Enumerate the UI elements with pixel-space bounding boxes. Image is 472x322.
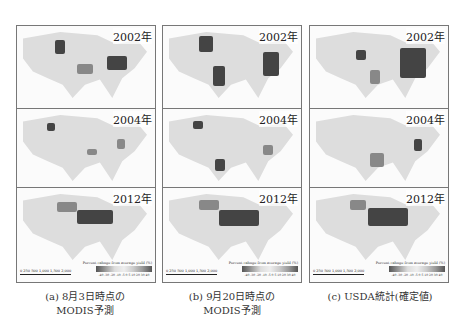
year-label: 2002年	[259, 28, 298, 44]
year-label: 2004年	[406, 111, 445, 127]
yield-blob	[350, 200, 366, 210]
caption-b-line2: MODIS予測	[157, 304, 307, 318]
map-c-2012: 0 250 500 1,000 1,500 2,000 Percent cahn…	[309, 188, 449, 283]
legend-title: Percent cahnge from average yield (%)	[83, 261, 152, 265]
caption-a-line2: MODIS予測	[10, 304, 160, 318]
year-label: 2004年	[259, 111, 298, 127]
scale-bar: 0 250 500 1,000 1,500 2,000	[166, 269, 217, 275]
yield-blob	[199, 200, 219, 210]
yield-blob	[57, 202, 77, 212]
column-b: 2002年 2004年 0 250 500 1,000 1,500 2,000 …	[162, 25, 302, 283]
yield-blob	[117, 139, 125, 149]
yield-blob	[77, 64, 93, 74]
legend: 0 250 500 1,000 1,500 2,000 Percent cahn…	[166, 261, 298, 279]
yield-blob	[215, 159, 225, 171]
map-a-2002: 2002年	[16, 25, 156, 109]
yield-blob	[107, 56, 127, 70]
scale-bar: 0 250 500 1,000 1,500 2,000	[20, 269, 71, 275]
legend-title: Percent cahnge from average yield (%)	[229, 261, 298, 265]
color-bar	[242, 266, 298, 272]
map-b-2002: 2002年	[162, 25, 302, 109]
caption-a: (a) 8月3日時点の MODIS予測	[10, 290, 160, 318]
legend-ticks: -40 -30 -20 -10 -5 0 5 10 20 30 40	[96, 273, 152, 277]
map-b-2004: 2004年	[162, 109, 302, 188]
yield-blob	[356, 50, 366, 60]
yield-blob	[370, 153, 384, 167]
yield-blob	[193, 121, 203, 129]
column-a: 2002年 2004年 0 250 500 1,000 1,500 2,000 …	[16, 25, 156, 283]
scale-bar: 0 250 500 1,000 1,500 2,000	[313, 269, 364, 275]
caption-a-line1: (a) 8月3日時点の	[10, 290, 160, 304]
map-c-2002: 2002年	[309, 25, 449, 109]
year-label: 2012年	[113, 190, 152, 206]
yield-blob	[414, 139, 422, 151]
yield-blob	[219, 210, 259, 226]
map-a-2012: 0 250 500 1,000 1,500 2,000 Percent cahn…	[16, 188, 156, 283]
yield-blob	[55, 40, 65, 54]
yield-blob	[263, 145, 273, 155]
map-a-2004: 2004年	[16, 109, 156, 188]
yield-blob	[199, 36, 213, 52]
color-bar	[389, 266, 445, 272]
yield-blob	[368, 208, 408, 226]
year-label: 2002年	[113, 28, 152, 44]
yield-blob	[47, 123, 55, 131]
map-c-2004: 2004年	[309, 109, 449, 188]
legend-title: Percent cahnge from average yield (%)	[376, 261, 445, 265]
yield-blob	[370, 70, 380, 84]
caption-b: (b) 9月20日時点の MODIS予測	[157, 290, 307, 318]
legend-ticks: -40 -30 -20 -10 -5 0 5 10 20 30 40	[389, 273, 445, 277]
year-label: 2012年	[259, 190, 298, 206]
yield-blob	[77, 210, 113, 224]
yield-blob	[87, 149, 97, 155]
year-label: 2004年	[113, 111, 152, 127]
caption-c-line1: (c) USDA統計(確定値)	[305, 290, 455, 304]
yield-blob	[400, 48, 426, 78]
yield-blob	[263, 52, 279, 76]
legend: 0 250 500 1,000 1,500 2,000 Percent cahn…	[313, 261, 445, 279]
legend: 0 250 500 1,000 1,500 2,000 Percent cahn…	[20, 261, 152, 279]
legend-ticks: -40 -30 -20 -10 -5 0 5 10 20 30 40	[242, 273, 298, 277]
column-c: 2002年 2004年 0 250 500 1,000 1,500 2,000 …	[309, 25, 449, 283]
yield-blob	[213, 66, 225, 86]
year-label: 2012年	[406, 190, 445, 206]
caption-c: (c) USDA統計(確定値)	[305, 290, 455, 304]
year-label: 2002年	[406, 28, 445, 44]
map-b-2012: 0 250 500 1,000 1,500 2,000 Percent cahn…	[162, 188, 302, 283]
caption-b-line1: (b) 9月20日時点の	[157, 290, 307, 304]
color-bar	[96, 266, 152, 272]
